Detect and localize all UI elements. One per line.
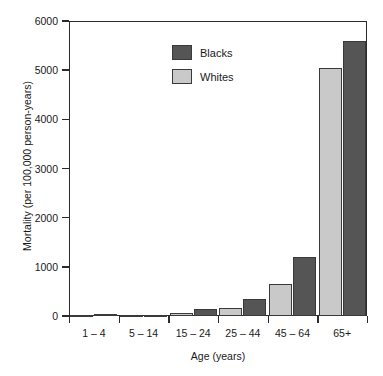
x-tick-label: 5 – 14 [119, 327, 169, 339]
bar-whites-2 [170, 313, 193, 316]
bar-blacks-0 [94, 314, 117, 316]
y-axis: 0100020003000400050006000 [0, 0, 69, 340]
bar-blacks-2 [194, 309, 217, 316]
x-axis-tick [119, 316, 120, 323]
y-tick-mark [62, 217, 69, 218]
x-axis-tick [218, 316, 219, 323]
legend-swatch-whites-icon [172, 69, 192, 84]
x-axis-tick [69, 316, 70, 323]
x-axis-tick [268, 316, 269, 323]
bar-blacks-4 [293, 257, 316, 316]
y-tick-label: 5000 [35, 63, 58, 77]
legend-item-whites: Whites [172, 69, 234, 84]
x-axis-title: Age (years) [69, 350, 367, 362]
bar-whites-0 [70, 315, 93, 317]
mortality-by-age-bar-chart: 0100020003000400050006000 Mortality (per… [0, 0, 383, 376]
y-tick-label: 4000 [35, 112, 58, 126]
legend-label-blacks: Blacks [200, 46, 232, 60]
x-tick-label: 15 – 24 [168, 327, 218, 339]
y-tick-mark [62, 20, 69, 21]
y-tick-mark [62, 266, 69, 267]
y-tick-mark [62, 168, 69, 169]
bar-blacks-3 [243, 299, 266, 316]
y-tick-mark [62, 69, 69, 70]
y-tick-label: 2000 [35, 211, 58, 225]
y-tick-mark [62, 315, 69, 316]
x-tick-label: 1 – 4 [69, 327, 119, 339]
x-tick-label: 45 – 64 [268, 327, 318, 339]
bar-whites-4 [269, 284, 292, 316]
bar-whites-5 [319, 68, 342, 316]
y-tick-label: 1000 [35, 260, 58, 274]
y-tick-label: 6000 [35, 14, 58, 28]
y-tick-mark [62, 119, 69, 120]
bar-blacks-5 [343, 41, 366, 316]
y-axis-title: Mortality (per 100,000 person-years) [21, 46, 33, 286]
bar-whites-3 [219, 308, 242, 316]
bar-blacks-1 [144, 315, 167, 317]
bar-whites-1 [120, 315, 143, 317]
legend: Blacks Whites [172, 45, 234, 93]
legend-label-whites: Whites [200, 70, 234, 84]
y-tick-label: 3000 [35, 162, 58, 176]
legend-item-blacks: Blacks [172, 45, 234, 60]
legend-swatch-blacks-icon [172, 45, 192, 60]
x-tick-label: 25 – 44 [218, 327, 268, 339]
x-axis-tick [168, 316, 169, 323]
x-axis-tick [317, 316, 318, 323]
y-tick-label: 0 [52, 309, 58, 323]
x-axis-tick [367, 316, 368, 323]
x-tick-label: 65+ [317, 327, 367, 339]
